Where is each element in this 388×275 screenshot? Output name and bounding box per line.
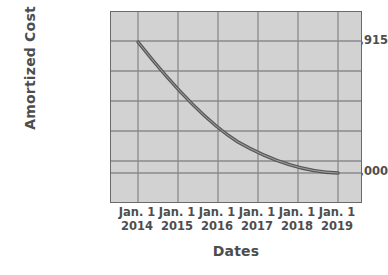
x-tick-2016-month: Jan. 1 bbox=[195, 206, 239, 220]
x-tick-2018-year: 2018 bbox=[275, 220, 319, 234]
x-tick-label-2019: Jan. 1 2019 bbox=[315, 206, 359, 233]
x-tick-label-2016: Jan. 1 2016 bbox=[195, 206, 239, 233]
x-tick-label-2017: Jan. 1 2017 bbox=[235, 206, 279, 233]
x-tick-2014-month: Jan. 1 bbox=[115, 206, 159, 220]
x-tick-2016-year: 2016 bbox=[195, 220, 239, 234]
x-tick-2015-month: Jan. 1 bbox=[155, 206, 199, 220]
x-tick-2014-year: 2014 bbox=[115, 220, 159, 234]
x-tick-label-2014: Jan. 1 2014 bbox=[115, 206, 159, 233]
x-tick-2015-year: 2015 bbox=[155, 220, 199, 234]
x-tick-label-2015: Jan. 1 2015 bbox=[155, 206, 199, 233]
x-axis-title: Dates bbox=[110, 243, 362, 259]
x-tick-2017-month: Jan. 1 bbox=[235, 206, 279, 220]
x-tick-label-2018: Jan. 1 2018 bbox=[275, 206, 319, 233]
x-tick-2019-month: Jan. 1 bbox=[315, 206, 359, 220]
x-tick-2019-year: 2019 bbox=[315, 220, 359, 234]
amortized-cost-chart: Amortized Cost $1,044,915 $1,000,000 bbox=[0, 0, 388, 275]
plot-area bbox=[110, 11, 362, 203]
amortized-cost-curve bbox=[138, 42, 338, 173]
x-tick-2017-year: 2017 bbox=[235, 220, 279, 234]
plot-svg bbox=[111, 12, 362, 203]
amortized-cost-curve-highlight bbox=[138, 42, 338, 173]
x-tick-2018-month: Jan. 1 bbox=[275, 206, 319, 220]
y-axis-title: Amortized Cost bbox=[22, 0, 38, 158]
horizontal-gridlines bbox=[111, 41, 362, 173]
